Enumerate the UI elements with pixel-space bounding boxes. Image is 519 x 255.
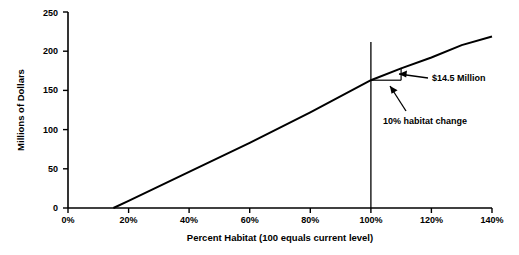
axes bbox=[68, 12, 492, 208]
x-axis-title: Percent Habitat (100 equals current leve… bbox=[187, 232, 373, 243]
chart-figure: 0 50 100 150 200 250 0% 20% 40% 60% 80% … bbox=[0, 0, 519, 255]
x-tick-label-120: 120% bbox=[420, 215, 443, 225]
y-tick-label-0: 0 bbox=[53, 203, 58, 213]
value-annotation-label: $14.5 Million bbox=[432, 73, 486, 83]
y-tick-label-150: 150 bbox=[43, 85, 58, 95]
y-tick-label-100: 100 bbox=[43, 125, 58, 135]
x-tick-label-100: 100% bbox=[359, 215, 382, 225]
value-annotation-arrow bbox=[399, 71, 428, 79]
y-tick-label-250: 250 bbox=[43, 8, 58, 18]
x-tick-label-0: 0% bbox=[61, 215, 74, 225]
x-tick-label-140: 140% bbox=[480, 215, 503, 225]
y-axis-title: Millions of Dollars bbox=[15, 69, 26, 151]
y-tick-label-50: 50 bbox=[48, 164, 58, 174]
chart-container: 0 50 100 150 200 250 0% 20% 40% 60% 80% … bbox=[0, 0, 519, 255]
x-tick-label-20: 20% bbox=[120, 215, 138, 225]
y-tick-label-200: 200 bbox=[43, 46, 58, 56]
x-tick-label-80: 80% bbox=[301, 215, 319, 225]
habitat-change-annotation-label: 10% habitat change bbox=[383, 116, 467, 126]
x-tick-label-60: 60% bbox=[241, 215, 259, 225]
x-tick-label-40: 40% bbox=[180, 215, 198, 225]
habitat-change-annotation-arrow bbox=[390, 86, 406, 111]
